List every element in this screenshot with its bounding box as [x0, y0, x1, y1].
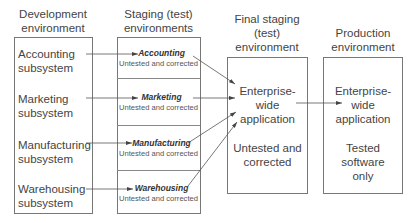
connector-arrows — [0, 0, 417, 223]
arrow-staging-warehousing-to-final — [188, 122, 237, 186]
arrow-staging-manufacturing-to-final — [188, 112, 236, 143]
arrow-staging-accounting-to-final — [193, 56, 235, 84]
